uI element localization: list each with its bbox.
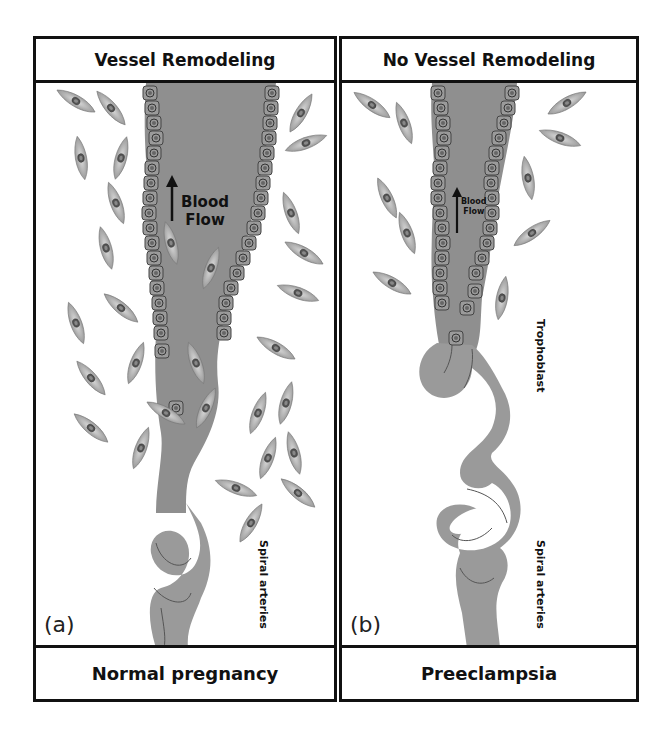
blood-flow-label: Blood Flow <box>181 193 229 229</box>
panel-a-footer: Normal pregnancy <box>36 645 334 699</box>
panel-b-illustration: Blood Flow Trophoblast Spiral arteries <box>342 83 636 645</box>
no-vessel-remodeling-illustration <box>342 83 636 645</box>
panel-b-footer: Preeclampsia <box>342 645 636 699</box>
blood-flow-label: Blood Flow <box>461 197 487 216</box>
panel-a-letter: (a) <box>44 612 75 637</box>
spiral-arteries-label: Spiral arteries <box>257 540 270 629</box>
panel-preeclampsia: No Vessel Remodeling <box>339 36 639 702</box>
panel-normal-pregnancy: Vessel Remodeling <box>33 36 337 702</box>
spiral-arteries-label: Spiral arteries <box>534 540 547 629</box>
panel-a-header: Vessel Remodeling <box>36 39 334 83</box>
panel-b-header: No Vessel Remodeling <box>342 39 636 83</box>
panel-a-illustration: Blood Flow Spiral arteries <box>36 83 334 645</box>
trophoblast-label: Trophoblast <box>534 319 547 392</box>
panel-b-letter: (b) <box>350 612 381 637</box>
vessel-remodeling-illustration <box>36 83 334 645</box>
